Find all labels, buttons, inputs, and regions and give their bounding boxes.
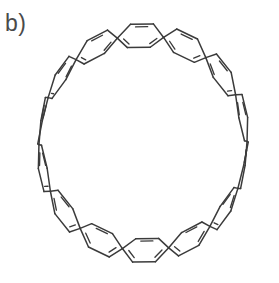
benzene-ring — [38, 145, 50, 192]
benzene-ring — [206, 54, 236, 96]
benzene-ring — [210, 188, 238, 230]
benzene-ring — [38, 97, 48, 144]
nanohoop-structure-diagram — [0, 0, 279, 283]
fused-ring-band — [38, 24, 248, 262]
benzene-ring — [169, 222, 210, 256]
figure-panel: b) — [0, 0, 279, 283]
benzene-ring — [238, 141, 248, 188]
benzene-ring — [76, 30, 117, 64]
benzene-ring — [236, 94, 248, 141]
benzene-ring — [48, 56, 76, 98]
benzene-ring — [122, 238, 168, 262]
benzene-ring — [117, 24, 163, 48]
benzene-ring — [50, 190, 80, 232]
benzene-ring — [164, 29, 206, 62]
benzene-ring — [80, 224, 122, 257]
